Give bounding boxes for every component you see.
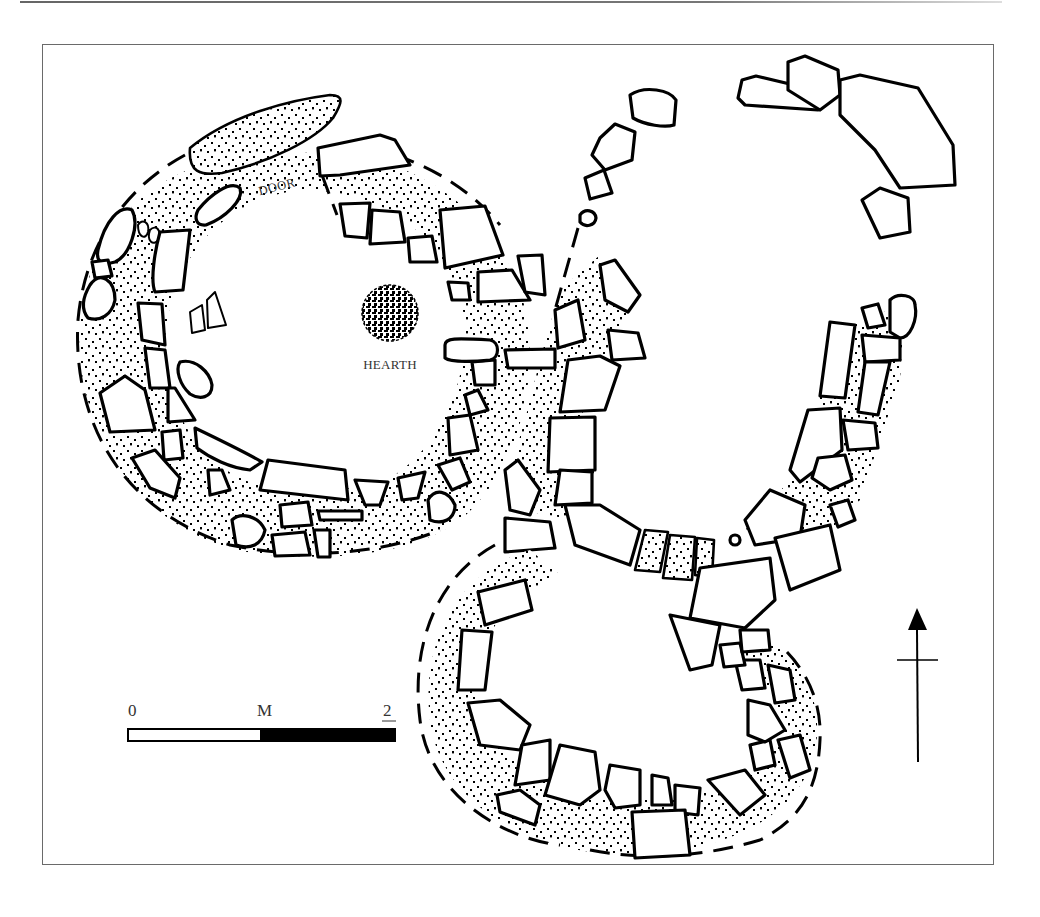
site-plan: HEARTH DOOR xyxy=(0,0,1040,917)
stone xyxy=(545,745,600,805)
stone xyxy=(472,360,495,385)
east-arm xyxy=(505,228,916,590)
stone xyxy=(585,170,612,199)
stone xyxy=(445,339,498,361)
stone xyxy=(663,535,695,580)
stone xyxy=(370,210,405,244)
stone xyxy=(162,430,183,460)
stone xyxy=(458,630,492,690)
stone xyxy=(560,356,620,412)
stone xyxy=(178,361,212,397)
hearth-label: HEARTH xyxy=(363,357,417,372)
stone xyxy=(840,75,955,188)
west-hut xyxy=(78,95,545,557)
stone xyxy=(138,303,165,345)
scale-segment-black xyxy=(261,729,395,741)
south-hut xyxy=(418,545,820,858)
stone xyxy=(318,511,362,520)
north-arrow-icon xyxy=(897,608,938,762)
stone xyxy=(555,300,585,348)
stone xyxy=(505,349,555,368)
scale-segment-white xyxy=(128,729,261,741)
stone xyxy=(750,740,775,770)
scale-end-label: 2 xyxy=(383,701,392,720)
scale-bar: 0 M 2 xyxy=(128,701,396,741)
stone xyxy=(775,525,840,590)
stone xyxy=(592,124,635,170)
stone xyxy=(207,292,226,328)
stone xyxy=(862,188,910,238)
stone xyxy=(740,630,770,652)
stone xyxy=(890,295,916,338)
stone xyxy=(448,282,470,300)
stone xyxy=(605,765,640,808)
stone xyxy=(408,236,437,262)
stone xyxy=(92,260,112,278)
stone xyxy=(580,211,596,226)
stone xyxy=(428,492,455,522)
stone xyxy=(690,558,775,628)
stone xyxy=(630,90,676,127)
stone xyxy=(555,470,592,505)
stone xyxy=(652,775,672,805)
stone xyxy=(280,502,312,527)
stone xyxy=(314,530,330,557)
stone xyxy=(768,665,795,703)
stone xyxy=(730,535,740,545)
stone xyxy=(190,305,205,333)
stone xyxy=(565,505,640,565)
stone xyxy=(440,206,503,268)
north-east-arc xyxy=(580,56,955,238)
stone xyxy=(632,810,690,858)
stone xyxy=(505,518,555,552)
stone xyxy=(843,420,878,450)
scale-unit-label: M xyxy=(257,701,272,720)
hearth-icon xyxy=(362,285,418,341)
stone xyxy=(862,304,885,328)
stone xyxy=(548,417,595,472)
stone xyxy=(635,530,668,572)
stone xyxy=(153,230,190,292)
scale-start-label: 0 xyxy=(128,701,137,720)
stone xyxy=(145,348,170,388)
stone xyxy=(272,532,310,556)
stone xyxy=(340,203,370,238)
stone xyxy=(138,221,148,236)
stone xyxy=(608,330,645,360)
stone xyxy=(862,335,900,362)
stone xyxy=(515,740,550,785)
